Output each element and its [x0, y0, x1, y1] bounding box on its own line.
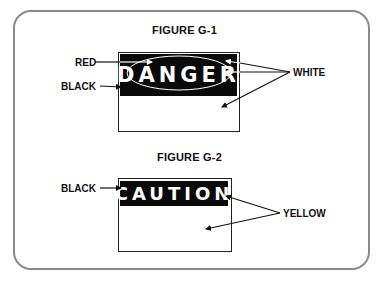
arrows-overlay [0, 0, 387, 287]
danger-ellipse [127, 56, 231, 90]
